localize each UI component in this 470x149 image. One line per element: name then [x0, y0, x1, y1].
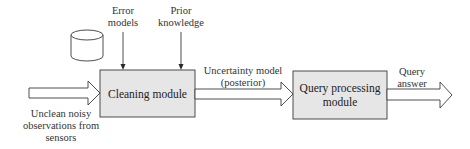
- error-models-label: Error models: [104, 5, 142, 29]
- sensor-observations-label: Unclean noisy observations from sensors: [18, 108, 104, 144]
- error-models-line1: Error: [104, 5, 142, 17]
- prior-knowledge-line2: knowledge: [156, 17, 206, 29]
- query-answer-line1: Query: [393, 66, 431, 78]
- sensor-observations-line2: observations from: [18, 120, 104, 132]
- uncertainty-model-label: Uncertainty model (posterior): [198, 65, 288, 89]
- prior-knowledge-label: Prior knowledge: [156, 5, 206, 29]
- prior-knowledge-arrow: [179, 32, 184, 70]
- database-cylinder-icon: [71, 30, 103, 61]
- query-processing-module-label: Query processing module: [293, 71, 387, 119]
- error-models-arrow: [121, 32, 126, 70]
- query-answer-line2: answer: [393, 78, 431, 90]
- sensor-observations-line3: sensors: [18, 132, 104, 144]
- sensor-input-arrow: [29, 81, 100, 105]
- cleaning-module-label: Cleaning module: [100, 70, 195, 117]
- sensor-observations-line1: Unclean noisy: [18, 108, 104, 120]
- prior-knowledge-line1: Prior: [156, 5, 206, 17]
- query-answer-label: Query answer: [393, 66, 431, 90]
- uncertainty-model-line1: Uncertainty model: [198, 65, 288, 77]
- query-processing-line1: Query processing: [300, 81, 381, 95]
- query-processing-line2: module: [323, 95, 358, 109]
- cleaning-module-text: Cleaning module: [108, 87, 187, 101]
- uncertainty-model-line2: (posterior): [198, 77, 288, 89]
- error-models-line2: models: [104, 17, 142, 29]
